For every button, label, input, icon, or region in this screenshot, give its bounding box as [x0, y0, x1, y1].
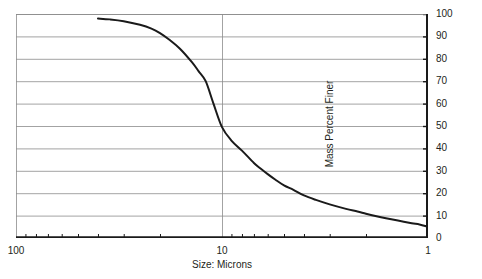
x-tick-label-1: 1	[425, 246, 431, 256]
y-tick-label-10: 10	[436, 211, 447, 221]
y-tick-label-40: 40	[436, 143, 447, 153]
x-tick-label-100: 100	[8, 246, 25, 256]
y-tick-label-50: 50	[436, 121, 447, 131]
x-axis-title: Size: Microns	[0, 259, 444, 271]
series-line-particle-size-distribution	[98, 18, 428, 226]
particle-size-distribution-chart: 1009080706050403020100 100101 Size: Micr…	[0, 0, 482, 279]
y-tick-label-20: 20	[436, 188, 447, 198]
y-tick-label-0: 0	[436, 233, 442, 243]
y-tick-label-60: 60	[436, 99, 447, 109]
y-axis-title: Mass Percent Finer	[323, 54, 337, 194]
plot-canvas	[16, 14, 428, 238]
y-tick-label-30: 30	[436, 166, 447, 176]
x-tick-label-10: 10	[216, 246, 227, 256]
y-tick-label-90: 90	[436, 31, 447, 41]
y-tick-label-80: 80	[436, 54, 447, 64]
y-tick-label-100: 100	[436, 9, 453, 19]
plot-area	[16, 14, 428, 238]
y-tick-label-70: 70	[436, 76, 447, 86]
